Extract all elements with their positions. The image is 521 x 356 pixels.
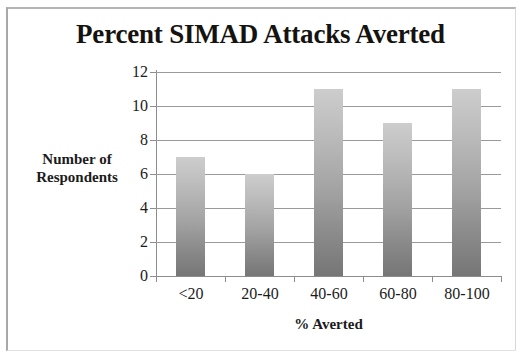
x-axis-title: % Averted	[156, 316, 501, 333]
y-axis-tick	[150, 242, 156, 243]
y-axis-tick-label: 4	[108, 200, 148, 216]
x-axis-tick-label: 20-40	[221, 285, 299, 303]
y-axis-tick	[150, 174, 156, 175]
bar	[383, 123, 412, 276]
gridline	[156, 276, 501, 277]
bar	[452, 89, 481, 276]
chart-figure: Percent SIMAD Attacks Averted Number of …	[0, 0, 521, 356]
bar	[245, 174, 274, 276]
x-axis-tick-label: <20	[152, 285, 230, 303]
y-axis-tick-labels: 121086420	[104, 72, 148, 276]
y-axis-tick	[150, 106, 156, 107]
bar	[176, 157, 205, 276]
gridline	[156, 72, 501, 73]
y-axis-tick-label: 2	[108, 234, 148, 250]
y-axis-tick	[150, 72, 156, 73]
y-axis-tick	[150, 276, 156, 277]
x-axis-tick-label: 40-60	[290, 285, 368, 303]
y-axis-tick-label: 8	[108, 132, 148, 148]
y-axis-tick-label: 10	[108, 98, 148, 114]
x-axis-tick-label: 60-80	[359, 285, 437, 303]
y-axis-tick-label: 0	[108, 268, 148, 284]
y-axis-tick-label: 12	[108, 64, 148, 80]
bar	[314, 89, 343, 276]
y-axis-tick	[150, 208, 156, 209]
x-axis-tick-label: 80-100	[428, 285, 506, 303]
y-axis-tick-label: 6	[108, 166, 148, 182]
plot-area	[156, 72, 501, 276]
y-axis-tick	[150, 140, 156, 141]
chart-title: Percent SIMAD Attacks Averted	[0, 19, 521, 50]
x-axis-tick	[501, 276, 502, 282]
